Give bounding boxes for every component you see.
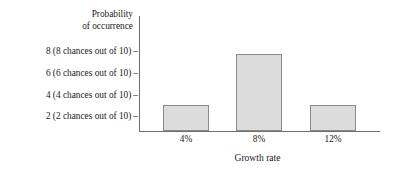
y-tick-label-2: 2 (2 chances out of 10)– xyxy=(0,111,139,121)
x-tick-label-12-percent: 12% xyxy=(324,134,341,145)
y-tick-text-8: 8 (8 chances out of 10) xyxy=(46,46,131,56)
bar-12-percent xyxy=(310,105,356,131)
bar-4-percent xyxy=(163,105,209,131)
y-axis-title-line-2: of occurrence xyxy=(14,21,133,33)
probability-bar-chart: Probability of occurrence 8 (8 chances o… xyxy=(0,0,395,174)
x-axis-title: Growth rate xyxy=(0,152,395,164)
x-axis-title-text: Growth rate xyxy=(234,152,280,164)
x-axis-line xyxy=(139,131,380,132)
y-tick-label-4: 4 (4 chances out of 10)– xyxy=(0,90,139,100)
y-axis-title: Probability of occurrence xyxy=(14,9,133,32)
y-tick-text-2: 2 (2 chances out of 10) xyxy=(46,111,131,121)
y-tick-label-8: 8 (8 chances out of 10)– xyxy=(0,46,139,56)
y-tick-text-6: 6 (6 chances out of 10) xyxy=(46,68,131,78)
x-tick-label-8-percent: 8% xyxy=(253,134,265,145)
plot-area xyxy=(139,16,380,131)
y-tick-text-4: 4 (4 chances out of 10) xyxy=(46,90,131,100)
y-axis-title-line-1: Probability xyxy=(14,9,133,21)
bar-8-percent xyxy=(236,54,282,131)
y-tick-label-6: 6 (6 chances out of 10)– xyxy=(0,68,139,78)
x-tick-label-4-percent: 4% xyxy=(180,134,192,145)
